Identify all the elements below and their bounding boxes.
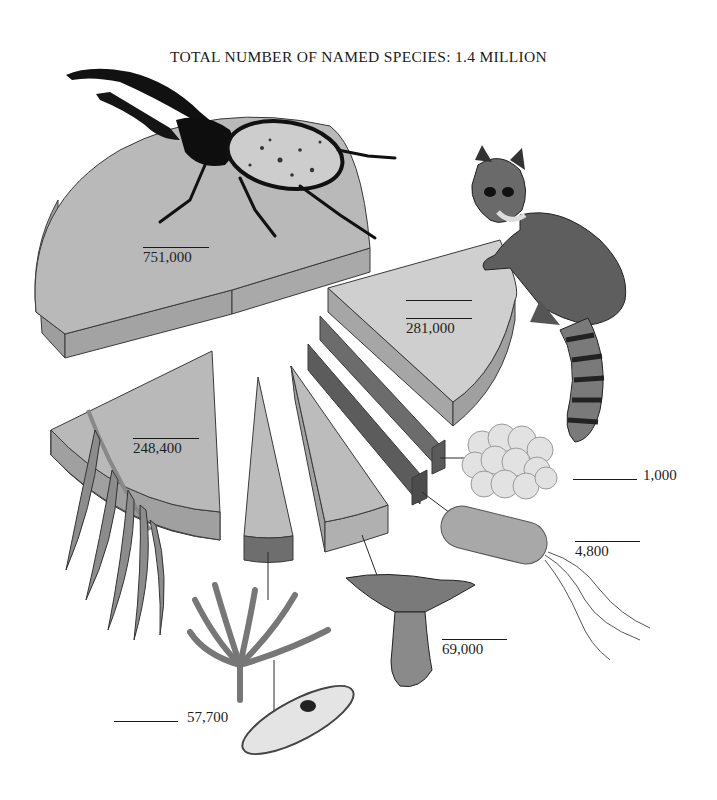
slice-protists xyxy=(244,377,293,563)
bacterium-icon xyxy=(437,502,650,660)
label-rule-insects xyxy=(143,247,209,248)
label-insects: 751,000 xyxy=(143,249,192,266)
algae-and-paramecium-icon xyxy=(190,585,362,767)
label-bacteria: 4,800 xyxy=(575,543,609,560)
label-viruses: 1,000 xyxy=(643,467,677,484)
label-rule-viruses xyxy=(573,479,637,480)
mushroom-icon xyxy=(346,574,475,686)
species-pie-infographic: TOTAL NUMBER OF NAMED SPECIES: 1.4 MILLI… xyxy=(0,0,717,800)
label-other-animals: 281,000 xyxy=(406,320,455,337)
pie-graphic xyxy=(0,0,717,800)
label-fungi: 69,000 xyxy=(442,641,483,658)
label-rule-other-animals-top xyxy=(406,300,472,301)
label-protists: 57,700 xyxy=(187,709,228,726)
label-rule-protists xyxy=(114,721,178,722)
label-rule-other-animals xyxy=(406,318,472,319)
label-rule-fungi xyxy=(442,639,507,640)
label-rule-plants xyxy=(133,438,199,439)
label-rule-bacteria xyxy=(575,541,640,542)
virus-cluster-icon xyxy=(462,424,557,499)
label-plants: 248,400 xyxy=(133,440,182,457)
